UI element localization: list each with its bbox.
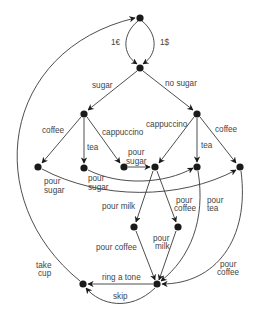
label-pour-coffee-mid-2: coffee	[174, 204, 197, 213]
node-no-sugar	[193, 110, 200, 117]
label-pour-milk: pour milk	[102, 202, 136, 211]
label-cappuccino-left: cappuccino	[102, 128, 144, 137]
node-tea	[193, 163, 200, 170]
label-pour-tea-2: tea	[207, 204, 219, 213]
edge-nosugar-coffee	[200, 117, 236, 163]
label-dollar: 1$	[160, 38, 170, 47]
label-pour-coffee-right-2: coffee	[217, 268, 240, 277]
label-cappuccino-right: cappuccino	[146, 120, 188, 129]
label-euro: 1€	[111, 38, 121, 47]
edge-no-sugar	[143, 71, 193, 110]
edge-pour-milk	[136, 171, 153, 222]
edge-pour-coffee-mid	[157, 171, 176, 222]
coffee-machine-state-diagram: 1€ 1$ sugar no sugar coffee tea cappucci…	[0, 0, 255, 317]
label-tea-right: tea	[201, 141, 213, 150]
node-sugar-tea	[80, 164, 87, 171]
edge-take-cup	[17, 18, 135, 281]
label-skip: skip	[113, 292, 128, 301]
node-paid	[136, 64, 143, 71]
node-sugar-coffee	[34, 163, 41, 170]
label-ring-a-tone: ring a tone	[102, 273, 141, 282]
label-pour-milk-low-2: milk	[155, 242, 170, 251]
node-sugar	[80, 110, 87, 117]
label-take-cup-2: cup	[38, 269, 52, 278]
node-coffee-poured	[174, 223, 181, 230]
label-coffee-left: coffee	[42, 126, 65, 135]
label-pour-sugar-b-1: pour	[88, 174, 105, 183]
node-ready	[153, 280, 160, 287]
node-cappuccino	[151, 163, 158, 170]
edge-sugar-cappuccino	[87, 117, 120, 163]
label-no-sugar: no sugar	[165, 79, 197, 88]
label-coffee-right: coffee	[215, 125, 238, 134]
label-pour-coffee-low: pour coffee	[96, 243, 137, 252]
label-pour-sugar-capp-2: sugar	[126, 157, 147, 166]
edge-sugar	[88, 71, 137, 110]
label-pour-sugar-capp-1: pour	[128, 148, 145, 157]
node-coffee	[236, 163, 243, 170]
edge-dollar	[142, 21, 154, 64]
label-tea-left: tea	[87, 143, 99, 152]
node-end	[79, 280, 86, 287]
label-pour-sugar-a-2: sugar	[44, 186, 65, 195]
edge-euro	[126, 21, 138, 64]
edge-sugar-coffee	[42, 117, 81, 163]
node-start	[136, 14, 143, 21]
node-milk-poured	[130, 223, 137, 230]
label-sugar: sugar	[92, 81, 113, 90]
labels: 1€ 1$ sugar no sugar coffee tea cappucci…	[36, 38, 240, 301]
label-pour-sugar-a-1: pour	[44, 177, 61, 186]
label-pour-sugar-b-2: sugar	[88, 183, 109, 192]
